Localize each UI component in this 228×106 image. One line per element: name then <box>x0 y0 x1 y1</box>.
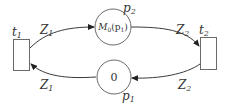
place-p1-marking: 0 <box>111 71 118 84</box>
arc-p1-to-t1 <box>31 64 96 78</box>
place-p2: M0(p1) p2 <box>95 1 136 45</box>
transition-t1: t1 <box>12 25 30 71</box>
transition-t1-box <box>14 40 30 71</box>
transition-t2-box <box>201 38 217 70</box>
transition-t1-label: t1 <box>12 25 22 40</box>
place-p1: 0 p1 <box>97 60 135 104</box>
arc-label-t1-p2: Z1 <box>39 23 53 38</box>
place-p2-label: p2 <box>123 1 136 16</box>
arc-label-t2-p1: Z2 <box>177 78 191 93</box>
arc-label-p1-t1: Z1 <box>39 78 53 93</box>
petri-net-diagram: t1 t2 M0(p1) p2 0 p1 Z1 Z2 Z2 Z1 <box>0 0 228 106</box>
arc-label-p2-t2: Z2 <box>175 23 189 38</box>
place-p1-label: p1 <box>122 89 135 104</box>
transition-t2-label: t2 <box>199 23 209 38</box>
arc-t2-to-p1 <box>132 64 200 78</box>
transition-t2: t2 <box>199 23 217 70</box>
